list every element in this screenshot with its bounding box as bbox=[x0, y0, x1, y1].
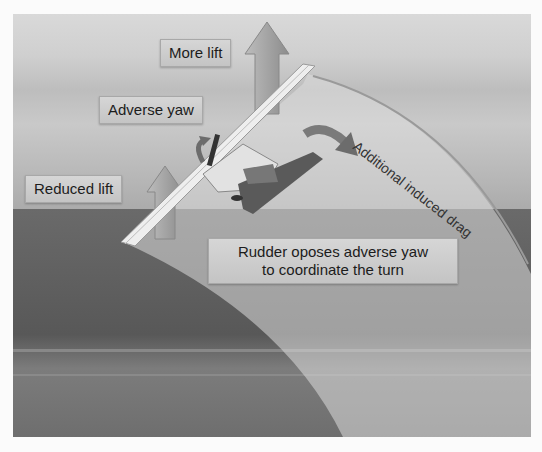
adverse-yaw-label: Adverse yaw bbox=[99, 96, 203, 124]
landing-gear bbox=[231, 195, 243, 201]
reduced-lift-label: Reduced lift bbox=[25, 175, 122, 203]
more-lift-label: More lift bbox=[160, 39, 231, 67]
rudder-label-line2: to coordinate the turn bbox=[217, 261, 449, 279]
rudder-label: Rudder oposes adverse yaw to coordinate … bbox=[208, 238, 458, 284]
rudder-label-line1: Rudder oposes adverse yaw bbox=[217, 243, 449, 261]
